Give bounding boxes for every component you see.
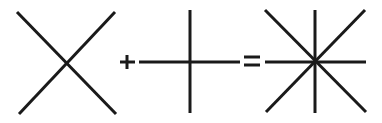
equals-icon	[244, 57, 260, 65]
x-shape-icon	[17, 12, 116, 114]
diagram-canvas	[0, 0, 382, 123]
eight-pointed-star-icon	[265, 10, 366, 113]
plus-icon	[120, 55, 135, 69]
cross-shape-icon	[139, 10, 240, 113]
